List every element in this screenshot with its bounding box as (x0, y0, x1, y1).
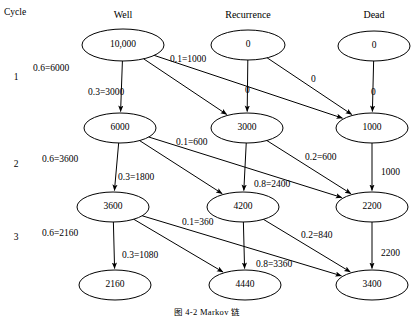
markov-chain-figure: Cycle WellRecurrenceDead 123 10,00000600… (0, 0, 413, 320)
edge-label-r0-to-d1: 0 (311, 75, 316, 85)
column-header-recurrence: Recurrence (225, 10, 271, 20)
edge-label-r0-to-r1: 0 (245, 86, 250, 96)
edge-r0-to-d1 (267, 58, 352, 115)
cycle-header-label: Cycle (4, 8, 26, 18)
edge-label-r1-to-r2: 0.8=2400 (254, 180, 290, 190)
edge-label-d2-to-d3: 2200 (381, 249, 400, 259)
cycle-number-2: 2 (14, 160, 19, 170)
node-value-r0: 0 (246, 40, 251, 50)
edge-label-r2-to-d3: 0.2=840 (301, 231, 332, 241)
edge-label-w1-to-w2: 0.6=3600 (42, 155, 78, 165)
edge-label-r2-to-r3: 0.8=3360 (256, 260, 292, 270)
edge-label-w1-to-d2: 0.1=600 (176, 138, 207, 148)
node-value-d0: 0 (372, 41, 377, 51)
node-value-r3: 4440 (236, 280, 255, 290)
node-value-r1: 3000 (238, 123, 257, 133)
edge-w0-to-r1 (144, 59, 227, 115)
edge-label-w2-to-r3: 0.3=1080 (122, 251, 158, 261)
edge-label-w2-to-d3: 0.1=360 (182, 218, 213, 228)
node-value-w2: 3600 (104, 202, 123, 212)
node-value-w0: 10,000 (110, 40, 136, 50)
edge-w2-to-w3 (113, 222, 114, 269)
cycle-number-1: 1 (14, 73, 19, 83)
edge-w1-to-r2 (140, 141, 223, 194)
node-value-d1: 1000 (363, 123, 382, 133)
edge-label-d1-to-d2: 1000 (381, 168, 400, 178)
edge-w1-to-w2 (114, 143, 118, 191)
edge-label-w0-to-w1: 0.6=6000 (33, 64, 69, 74)
edge-label-w1-to-r2: 0.3=1800 (118, 173, 154, 183)
node-value-w1: 6000 (111, 123, 130, 133)
cycle-number-3: 3 (14, 233, 19, 243)
node-value-r2: 4200 (234, 202, 253, 212)
edge-label-w0-to-r1: 0.3=3000 (88, 88, 124, 98)
node-value-d3: 3400 (363, 280, 382, 290)
edge-label-d0-to-d1: 0 (371, 88, 376, 98)
node-value-d2: 2200 (363, 202, 382, 212)
edge-layer (113, 55, 373, 275)
column-header-well: Well (114, 10, 133, 20)
node-value-w3: 2160 (106, 280, 125, 290)
edge-r2-to-r3 (243, 222, 244, 269)
edge-w2-to-d3 (142, 216, 341, 276)
edge-label-w0-to-d1: 0.1=1000 (170, 55, 206, 65)
column-header-dead: Dead (363, 10, 384, 20)
figure-caption: 图 4-2 Markov 链 (174, 308, 241, 317)
edge-label-r1-to-d2: 0.2=600 (305, 153, 336, 163)
edge-label-w2-to-w3: 0.6=2160 (42, 229, 78, 239)
